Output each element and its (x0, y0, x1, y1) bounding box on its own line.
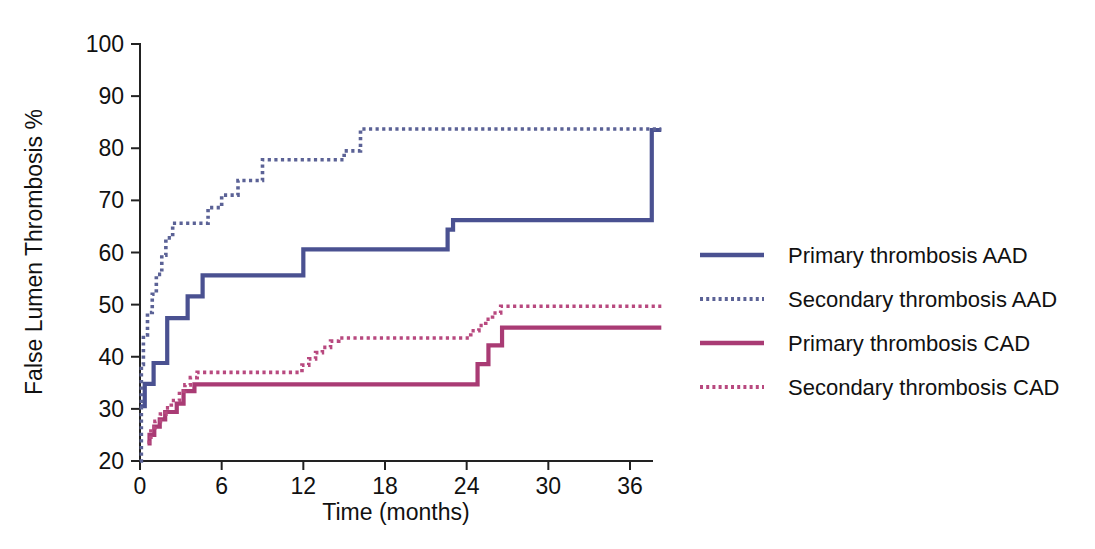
kaplan-meier-chart: 2030405060708090100 061218243036 Time (m… (0, 0, 1095, 549)
y-tick-label: 30 (98, 396, 124, 422)
x-tick-label: 36 (617, 473, 643, 499)
y-tick-label: 90 (98, 83, 124, 109)
x-tick-label: 0 (134, 473, 147, 499)
x-tick-label: 12 (291, 473, 317, 499)
x-tick-label: 30 (536, 473, 562, 499)
figure-container: 2030405060708090100 061218243036 Time (m… (0, 0, 1095, 549)
x-tick-label: 24 (454, 473, 480, 499)
y-tick-label: 80 (98, 135, 124, 161)
y-tick-label: 20 (98, 448, 124, 474)
y-tick-label: 50 (98, 292, 124, 318)
legend-label-2[interactable]: Primary thrombosis CAD (788, 331, 1030, 356)
y-tick-label: 100 (86, 31, 124, 57)
y-tick-label: 60 (98, 240, 124, 266)
y-tick-label: 40 (98, 344, 124, 370)
x-tick-label: 18 (372, 473, 398, 499)
legend-label-3[interactable]: Secondary thrombosis CAD (788, 375, 1059, 400)
x-axis-title: Time (months) (322, 499, 469, 525)
x-tick-label: 6 (215, 473, 228, 499)
legend-label-1[interactable]: Secondary thrombosis AAD (788, 287, 1057, 312)
y-tick-label: 70 (98, 187, 124, 213)
legend-label-0[interactable]: Primary thrombosis AAD (788, 243, 1028, 268)
y-axis-title: False Lumen Thrombosis % (21, 109, 47, 395)
